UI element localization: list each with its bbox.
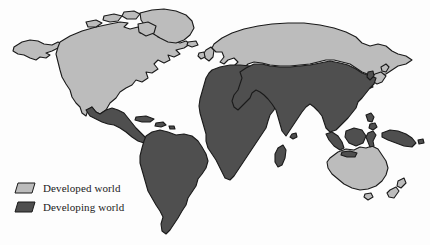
- region-java: [341, 151, 357, 157]
- legend-label-developing: Developing world: [43, 201, 124, 213]
- legend-swatch-developing: [14, 201, 36, 213]
- world-map-figure: Developed world Developing world: [0, 0, 430, 245]
- legend-item-developed: Developed world: [14, 178, 154, 197]
- legend-item-developing: Developing world: [14, 197, 154, 216]
- region-iceland: [187, 41, 198, 47]
- region-arctic-islands-2: [122, 11, 140, 19]
- region-hispaniola: [155, 122, 166, 127]
- legend-label-developed: Developed world: [43, 182, 121, 194]
- legend-swatch-developed: [14, 182, 36, 194]
- region-solomon-islands: [418, 139, 424, 144]
- region-lesser-antilles: [169, 126, 175, 129]
- map-legend: Developed world Developing world: [14, 178, 154, 216]
